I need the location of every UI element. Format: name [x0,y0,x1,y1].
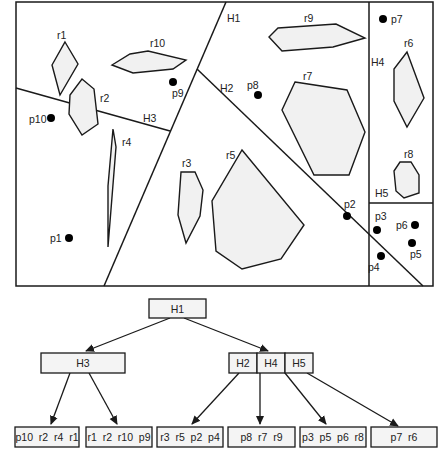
label-r3: r3 [182,157,191,169]
label-r4: r4 [122,136,131,148]
region-r10 [112,51,186,73]
label-p6: p6 [396,219,408,231]
tree-node-h4-label: H4 [264,357,278,369]
point-p6 [411,221,419,229]
tree-leaf-6-label: p7 r6 [391,431,418,443]
region-r5 [212,150,304,269]
label-p7: p7 [391,13,403,25]
label-h4: H4 [371,56,385,68]
point-p1 [65,234,73,242]
point-p10 [47,114,55,122]
label-p10: p10 [29,113,47,125]
tree-leaf-5-label: p3 p5 p6 r8 [302,431,364,443]
point-p9 [169,78,177,86]
label-p9: p9 [172,87,184,99]
tree-node-h3-label: H3 [76,357,90,369]
label-h2: H2 [220,82,234,94]
edge-h3-leaf1 [51,373,70,424]
label-r5: r5 [226,149,235,161]
edge-h3-leaf2 [89,373,117,424]
label-p4: p4 [368,261,380,273]
label-r2: r2 [100,92,109,104]
region-r3 [178,172,203,243]
region-r4 [108,129,116,247]
label-r8: r8 [404,148,413,160]
edge-h1-h2h4h5 [184,318,268,351]
label-p1: p1 [50,232,62,244]
label-r10: r10 [150,37,165,49]
tree-leaf-2-label: r1 r2 r10 p9 [87,431,150,443]
region-r7 [282,82,365,175]
label-h5: H5 [375,187,389,199]
label-r1: r1 [57,29,66,41]
tree-leaf-1-label: p10 r2 r4 r1 [15,431,78,443]
edge-h1-h3 [86,318,170,351]
region-r9 [269,24,365,51]
region-r1 [52,42,78,95]
region-r8 [394,162,419,198]
tree-node-h5-label: H5 [292,357,306,369]
point-p5 [408,239,416,247]
label-p8: p8 [247,79,259,91]
point-p2 [343,212,351,220]
label-r9: r9 [304,12,313,24]
tree-leaf-3-label: r3 r5 p2 p4 [160,431,220,443]
diagram-canvas: H1 H2 H3 H4 H5 r1 r2 r3 r4 r5 r6 r7 r8 r… [0,0,446,457]
tree-panel: H1 H3 H2 H4 H5 p10 r2 r4 r1 r1 r2 r10 p9… [15,299,437,447]
point-p8 [254,91,262,99]
label-r7: r7 [303,70,312,82]
tree-node-h1-label: H1 [171,303,185,315]
label-h3: H3 [143,112,157,124]
edge-h2-leaf3 [192,373,239,424]
region-r6 [394,52,424,127]
label-h1: H1 [227,12,241,24]
tree-node-h2-label: H2 [236,357,250,369]
region-r2 [69,79,98,135]
label-p2: p2 [344,198,356,210]
label-p3: p3 [375,210,387,222]
point-p4 [377,252,385,260]
partition-panel: H1 H2 H3 H4 H5 r1 r2 r3 r4 r5 r6 r7 r8 r… [16,2,433,286]
point-p3 [373,226,381,234]
tree-leaf-4-label: p8 r7 r9 [240,431,282,443]
point-p7 [379,15,387,23]
label-p5: p5 [410,248,422,260]
label-r6: r6 [404,37,413,49]
